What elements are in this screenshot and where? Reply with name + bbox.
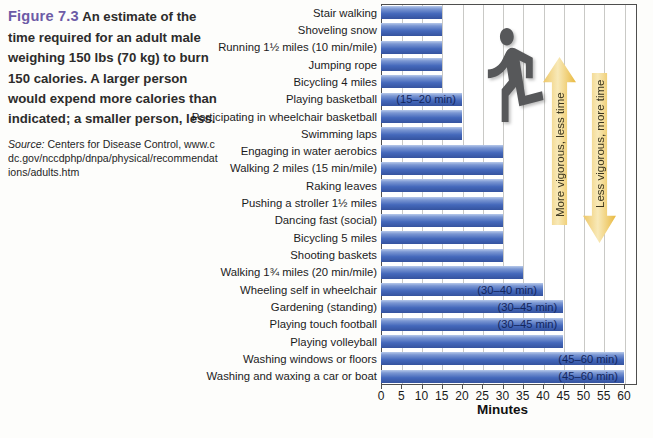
bar xyxy=(381,127,462,140)
bar: (15–20 min) xyxy=(381,93,462,106)
axis-tick-label: 60 xyxy=(617,389,630,403)
category-label: Washing windows or floors xyxy=(158,353,381,365)
chart-row: Walking 1¾ miles (20 min/mile) xyxy=(158,264,637,281)
bar xyxy=(381,197,503,210)
bar: (30–40 min) xyxy=(381,283,543,296)
bar-track xyxy=(381,246,637,263)
category-label: Gardening (standing) xyxy=(158,301,381,313)
chart-row: Shooting baskets xyxy=(158,246,637,263)
category-label: Shoveling snow xyxy=(158,24,381,36)
category-label: Dancing fast (social) xyxy=(158,214,381,226)
bar-track: (30–45 min) xyxy=(381,316,637,333)
chart-row: Washing and waxing a car or boat(45–60 m… xyxy=(158,368,637,385)
bar-track: (45–60 min) xyxy=(381,368,637,385)
bar xyxy=(381,41,442,54)
bar: (45–60 min) xyxy=(381,352,624,365)
bar-range-annotation: (15–20 min) xyxy=(396,93,462,105)
bar xyxy=(381,58,442,71)
bar-range-annotation: (30–45 min) xyxy=(498,301,564,313)
axis-tick-label: 0 xyxy=(378,389,385,403)
axis-tick-label: 20 xyxy=(455,389,468,403)
bar-track: (45–60 min) xyxy=(381,350,637,367)
chart-row: Wheeling self in wheelchair(30–40 min) xyxy=(158,281,637,298)
category-label: Pushing a stroller 1½ miles xyxy=(158,197,381,209)
category-label: Engaging in water aerobics xyxy=(158,145,381,157)
bar: (45–60 min) xyxy=(381,370,624,383)
bar xyxy=(381,249,503,262)
axis-tick-label: 10 xyxy=(415,389,428,403)
bar-track: (30–45 min) xyxy=(381,298,637,315)
category-label: Bicycling 5 miles xyxy=(158,232,381,244)
bar-range-annotation: (30–45 min) xyxy=(498,318,564,330)
bar xyxy=(381,266,523,279)
category-label: Raking leaves xyxy=(158,180,381,192)
category-label: Shooting baskets xyxy=(158,249,381,261)
category-label: Participating in wheelchair basketball xyxy=(158,111,381,123)
axis-tick-label: 30 xyxy=(496,389,509,403)
chart-row: Gardening (standing)(30–45 min) xyxy=(158,298,637,315)
more-vigorous-arrow-label: More vigorous, less time xyxy=(543,84,576,225)
category-label: Walking 2 miles (15 min/mile) xyxy=(158,162,381,174)
category-label: Playing touch football xyxy=(158,318,381,330)
bar-track xyxy=(381,4,637,21)
bar xyxy=(381,145,503,158)
bar-track xyxy=(381,264,637,281)
x-axis-label: Minutes xyxy=(381,402,624,417)
bar xyxy=(381,6,442,19)
figure-7-3: Figure 7.3 An estimate of the time requi… xyxy=(0,0,653,438)
bar xyxy=(381,335,563,348)
axis-tick-label: 40 xyxy=(536,389,549,403)
axis-tick-label: 15 xyxy=(435,389,448,403)
runner-icon xyxy=(474,26,550,122)
axis-tick-label: 45 xyxy=(557,389,570,403)
category-label: Running 1½ miles (10 min/mile) xyxy=(158,41,381,53)
less-vigorous-arrow-label: Less vigorous, more time xyxy=(583,75,616,213)
bar xyxy=(381,231,503,244)
axis-tick-label: 55 xyxy=(597,389,610,403)
bar xyxy=(381,110,462,123)
bar-range-annotation: (30–40 min) xyxy=(477,284,543,296)
axis-tick-label: 25 xyxy=(476,389,489,403)
bar xyxy=(381,179,503,192)
chart-row: Stair walking xyxy=(158,4,637,21)
bar-range-annotation: (45–60 min) xyxy=(558,370,624,382)
chart-row: Running 1½ miles (10 min/mile) xyxy=(158,39,637,56)
bar xyxy=(381,75,442,88)
chart-row: Playing touch football(30–45 min) xyxy=(158,316,637,333)
category-label: Walking 1¾ miles (20 min/mile) xyxy=(158,266,381,278)
bar-track xyxy=(381,333,637,350)
bar: (30–45 min) xyxy=(381,300,563,313)
bar: (30–45 min) xyxy=(381,318,563,331)
category-label: Jumping rope xyxy=(158,59,381,71)
category-label: Playing volleyball xyxy=(158,336,381,348)
category-label: Playing basketball xyxy=(158,93,381,105)
bar xyxy=(381,162,503,175)
chart-row: Playing volleyball xyxy=(158,333,637,350)
chart-row: Shoveling snow xyxy=(158,21,637,38)
category-label: Bicycling 4 miles xyxy=(158,76,381,88)
chart-row: Bicycling 5 miles xyxy=(158,229,637,246)
source-label: Source: xyxy=(8,138,45,150)
axis-tick-label: 35 xyxy=(516,389,529,403)
bar-range-annotation: (45–60 min) xyxy=(558,353,624,365)
category-label: Wheeling self in wheelchair xyxy=(158,284,381,296)
category-label: Swimming laps xyxy=(158,128,381,140)
axis-tick-label: 50 xyxy=(577,389,590,403)
figure-number: Figure 7.3 xyxy=(8,8,79,24)
axis-tick-label: 5 xyxy=(398,389,405,403)
chart-row: Washing windows or floors(45–60 min) xyxy=(158,350,637,367)
category-label: Stair walking xyxy=(158,7,381,19)
category-label: Washing and waxing a car or boat xyxy=(158,370,381,382)
bar-track: (30–40 min) xyxy=(381,281,637,298)
bar xyxy=(381,23,442,36)
bar xyxy=(381,214,503,227)
